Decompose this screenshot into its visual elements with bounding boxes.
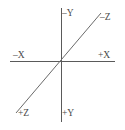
- coordinate-axes-diagram: –Y –Z –X +X +Z +Y: [0, 0, 125, 130]
- axis-label-negative-y: –Y: [62, 8, 74, 18]
- axis-label-positive-y: +Y: [62, 108, 74, 118]
- axis-label-positive-z: +Z: [18, 108, 29, 118]
- axis-label-negative-z: –Z: [100, 12, 111, 22]
- axis-label-negative-x: –X: [13, 50, 25, 60]
- axis-label-positive-x: +X: [98, 50, 110, 60]
- z-axis-line: [16, 13, 101, 113]
